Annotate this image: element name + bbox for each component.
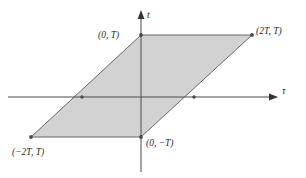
axis-crossing-marker-right	[192, 95, 195, 98]
horizontal-axis-arrowhead	[269, 94, 278, 101]
vertex-marker-top-right	[250, 33, 254, 37]
vertex-marker-bottom-center	[139, 135, 143, 139]
vertical-axis-label: t	[147, 10, 150, 20]
horizontal-axis-label: τ	[282, 86, 286, 96]
axis-crossing-marker-left	[80, 95, 83, 98]
point-label-bottom-center-vertex: (0, −T)	[146, 139, 174, 149]
point-label-top-right-vertex: (2T, T)	[256, 27, 282, 37]
figure-canvas: (0, T) (2T, T) (−2T, T) (0, −T) t τ	[0, 0, 306, 178]
vertical-axis-arrowhead	[138, 10, 145, 19]
point-label-bottom-left-vertex: (−2T, T)	[12, 148, 44, 158]
point-label-top-left-vertex: (0, T)	[98, 31, 119, 41]
vertex-marker-bottom-left	[29, 135, 33, 139]
vertex-marker-top-left	[139, 33, 143, 37]
